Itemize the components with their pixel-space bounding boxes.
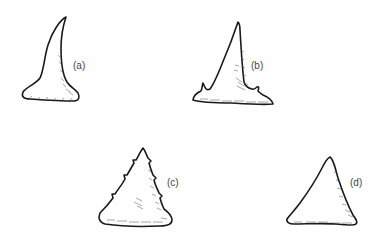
tooth-d [287, 157, 357, 225]
tooth-a [22, 17, 79, 101]
shark-teeth-illustration [0, 0, 376, 240]
label-d: (d) [350, 177, 362, 188]
label-b: (b) [251, 60, 263, 71]
label-c: (c) [167, 177, 179, 188]
tooth-c [99, 148, 172, 226]
label-a: (a) [73, 60, 85, 71]
